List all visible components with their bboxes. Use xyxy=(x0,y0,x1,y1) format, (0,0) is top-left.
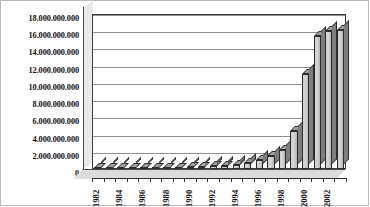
y-axis-tick-label: 6.000.000.000 xyxy=(33,117,79,126)
chart-container: 18.000.000.00016.000.000.00014.000.000.0… xyxy=(0,0,370,207)
bar-front-face xyxy=(152,167,159,169)
x-axis-tick-label: 2002 xyxy=(322,190,332,207)
bar xyxy=(290,131,297,169)
bar xyxy=(279,150,286,169)
bar xyxy=(337,30,344,169)
bar xyxy=(314,36,321,169)
bar-front-face xyxy=(175,167,182,169)
bar-front-face xyxy=(198,167,205,169)
bar-front-face xyxy=(302,74,309,169)
bar xyxy=(221,166,228,169)
x-axis-tick-label: 1990 xyxy=(184,190,194,207)
bar-front-face xyxy=(210,166,217,169)
bar-front-face xyxy=(163,167,170,169)
bar xyxy=(94,168,101,170)
y-axis-line xyxy=(83,7,84,178)
x-axis-tick-label: 2000 xyxy=(299,190,309,207)
bar-front-face xyxy=(129,167,136,169)
bar xyxy=(163,168,170,170)
bar xyxy=(325,31,332,169)
bar-side-face xyxy=(344,20,349,164)
bar xyxy=(187,167,194,169)
y-axis-tick-label: 4.000.000.000 xyxy=(33,134,79,143)
x-axis-tick-label: 1998 xyxy=(276,190,286,207)
y-axis-tick-label: 18.000.000.000 xyxy=(29,14,79,23)
x-axis-tick-label: 1986 xyxy=(137,190,147,207)
x-axis-labels: 1982198419861988199019921994199619982000… xyxy=(92,182,346,207)
y-axis-tick-label: 14.000.000.000 xyxy=(29,48,79,57)
x-axis-tick-label: 1984 xyxy=(114,190,124,207)
bar-front-face xyxy=(337,30,344,169)
bar-front-face xyxy=(256,160,263,169)
bar xyxy=(267,156,274,169)
bar xyxy=(152,168,159,170)
x-axis-tick xyxy=(346,178,347,182)
bar-front-face xyxy=(94,167,101,169)
bar-front-face xyxy=(314,36,321,169)
bar xyxy=(302,74,309,169)
bar-front-face xyxy=(140,167,147,169)
y-axis-tick-label: 8.000.000.000 xyxy=(33,100,79,109)
bar xyxy=(256,160,263,169)
bar-front-face xyxy=(117,167,124,169)
bar xyxy=(210,166,217,169)
y-axis-tick-label: 12.000.000.000 xyxy=(29,65,79,74)
y-axis-labels: 18.000.000.00016.000.000.00014.000.000.0… xyxy=(0,0,82,180)
bar xyxy=(244,163,251,169)
bar xyxy=(233,165,240,169)
bar-front-face xyxy=(244,163,251,169)
bar-front-face xyxy=(290,131,297,169)
bar-front-face xyxy=(233,165,240,169)
y-axis-tick-label: 2.000.000.000 xyxy=(33,151,79,160)
bar-front-face xyxy=(267,156,274,169)
bar-front-face xyxy=(279,150,286,169)
bar xyxy=(175,168,182,170)
bar-series xyxy=(92,14,346,178)
x-axis-tick-label: 1982 xyxy=(91,190,101,207)
x-axis-tick-label: 1992 xyxy=(207,190,217,207)
bar-front-face xyxy=(187,167,194,169)
x-axis-tick-label: 1994 xyxy=(230,190,240,207)
bar xyxy=(117,168,124,170)
x-axis-tick-label: 1996 xyxy=(253,190,263,207)
bar xyxy=(198,167,205,169)
bar-front-face xyxy=(221,166,228,169)
bar-front-face xyxy=(106,167,113,169)
y-axis-tick-label: 10.000.000.000 xyxy=(29,82,79,91)
bar xyxy=(129,168,136,170)
x-axis-tick-label: 1988 xyxy=(161,190,171,207)
y-axis-tick-label: 16.000.000.000 xyxy=(29,31,79,40)
bar xyxy=(140,168,147,170)
bar-front-face xyxy=(325,31,332,169)
bar xyxy=(106,168,113,170)
